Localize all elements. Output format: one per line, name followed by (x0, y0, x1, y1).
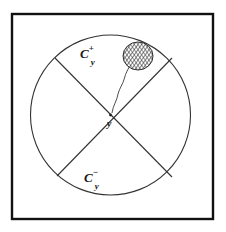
label-center-point: y (107, 118, 111, 129)
figure-page: C+y C−y y (0, 0, 226, 232)
label-cone-lower-subscript: y (95, 181, 99, 191)
label-cone-lower: C−y (84, 168, 102, 189)
label-cone-upper-superscript: + (89, 43, 94, 53)
label-cone-upper-subscript: y (91, 57, 95, 67)
label-cone-lower-superscript: − (93, 167, 98, 177)
hatched-blob-group (123, 42, 153, 70)
cone-apex-point (109, 114, 112, 117)
label-cone-upper: C+y (80, 44, 98, 65)
hatched-blob-overlay (123, 42, 153, 70)
cone-diagram-canvas (0, 0, 226, 232)
label-cone-upper-base: C (80, 46, 89, 61)
label-cone-lower-base: C (84, 170, 93, 185)
